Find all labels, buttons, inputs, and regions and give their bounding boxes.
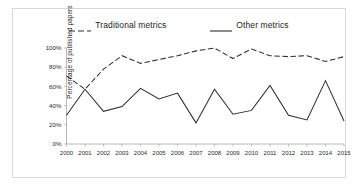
- y-axis-tick-label: 40%: [49, 102, 62, 109]
- y-axis-tick-labels: 0%20%40%60%80%100%: [46, 44, 62, 147]
- x-axis-tick-label: 2008: [208, 150, 222, 156]
- x-axis-tick-label: 2011: [264, 150, 278, 156]
- plot-area: 0%20%40%60%80%100% 200020012002200320042…: [0, 0, 358, 189]
- x-axis-tick-label: 2013: [300, 150, 314, 156]
- x-axis-tick-label: 2002: [97, 150, 111, 156]
- y-axis-tick-label: 100%: [46, 44, 62, 51]
- x-axis-tick-label: 2004: [134, 150, 148, 156]
- y-axis-tick-label: 60%: [49, 83, 62, 90]
- x-axis-tick-label: 2009: [226, 150, 240, 156]
- x-axis-tick-label: 2010: [245, 150, 259, 156]
- x-axis-tick-label: 2003: [115, 150, 129, 156]
- y-axis-tick-marks: [64, 48, 67, 144]
- x-axis-tick-label: 2014: [319, 150, 333, 156]
- series-line-traditional-metrics: [67, 48, 345, 89]
- y-axis-tick-label: 20%: [49, 121, 62, 128]
- chart-figure: Traditional metrics Other metrics Percen…: [0, 0, 358, 189]
- x-axis-tick-label: 2005: [152, 150, 166, 156]
- x-axis-tick-label: 2007: [189, 150, 203, 156]
- x-axis-tick-label: 2015: [337, 150, 351, 156]
- x-axis-tick-marks: [67, 144, 345, 147]
- chart-plot-svg: 0%20%40%60%80%100% 200020012002200320042…: [0, 0, 358, 189]
- x-axis-tick-labels: 2000200120022003200420052006200720082009…: [60, 150, 352, 156]
- x-axis-tick-label: 2001: [78, 150, 92, 156]
- series-line-other-metrics: [67, 81, 345, 123]
- y-axis-tick-label: 0%: [53, 140, 62, 147]
- y-axis-tick-label: 80%: [49, 63, 62, 70]
- x-axis-tick-label: 2006: [171, 150, 185, 156]
- x-axis-tick-label: 2000: [60, 150, 74, 156]
- x-axis-tick-label: 2012: [282, 150, 296, 156]
